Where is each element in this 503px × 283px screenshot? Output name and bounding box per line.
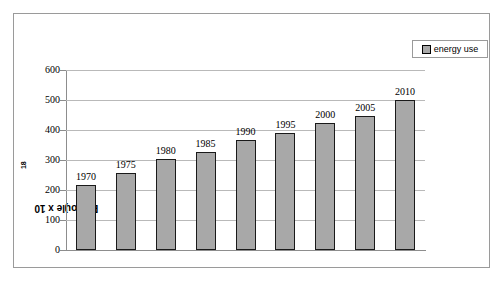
bar-label-2010: 2010 (395, 86, 415, 97)
legend-swatch-energy-use (422, 45, 431, 54)
y-tick-0 (60, 250, 66, 251)
y-tick-100 (60, 220, 66, 221)
bar-1970: 1970 (76, 185, 96, 250)
gridline-0 (66, 250, 425, 251)
bar-label-2005: 2005 (355, 102, 375, 113)
bar-label-1970: 1970 (76, 171, 96, 182)
y-tick-200 (60, 190, 66, 191)
bar-1995: 1995 (275, 133, 295, 250)
bar-1980: 1980 (156, 159, 176, 250)
bar-label-1995: 1995 (275, 119, 295, 130)
y-tick-label-400: 400 (20, 125, 60, 135)
y-tick-label-100: 100 (20, 215, 60, 225)
y-tick-label-300: 300 (20, 155, 60, 165)
y-tick-label-200: 200 (20, 185, 60, 195)
bar-label-1975: 1975 (116, 159, 136, 170)
bar-label-1985: 1985 (196, 138, 216, 149)
gridline-600 (66, 70, 425, 71)
chart-image: energy use EJ (joule x 1018) 01002003004… (0, 0, 503, 283)
y-tick-300 (60, 160, 66, 161)
plot-area: 197019751980198519901995200020052010 (66, 70, 425, 250)
bar-1985: 1985 (196, 152, 216, 250)
chart-legend: energy use (412, 40, 488, 58)
bar-label-1990: 1990 (236, 126, 256, 137)
bar-1975: 1975 (116, 173, 136, 250)
y-tick-500 (60, 100, 66, 101)
bar-2005: 2005 (355, 116, 375, 250)
bar-1990: 1990 (236, 140, 256, 250)
y-tick-label-600: 600 (20, 65, 60, 75)
y-tick-label-0: 0 (20, 245, 60, 255)
bar-label-1980: 1980 (156, 145, 176, 156)
y-axis-tick-labels: 0100200300400500600 (16, 0, 60, 283)
y-tick-600 (60, 70, 66, 71)
y-tick-label-500: 500 (20, 95, 60, 105)
bar-2000: 2000 (315, 123, 335, 250)
bar-label-2000: 2000 (315, 109, 335, 120)
bar-2010: 2010 (395, 100, 415, 250)
y-tick-400 (60, 130, 66, 131)
legend-label-energy-use: energy use (434, 45, 479, 54)
